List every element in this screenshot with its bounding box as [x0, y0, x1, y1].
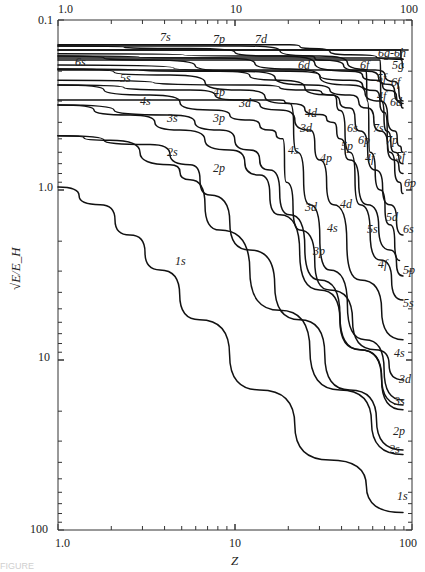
curve-label: 4d [340, 197, 353, 211]
curve-2s [58, 136, 403, 455]
curve-label: 4f [377, 89, 388, 103]
curve-label: 2p [393, 424, 405, 438]
curve-label: 5f [396, 149, 407, 163]
curve-label: 3d [299, 121, 313, 135]
curve-label: 6p [358, 133, 370, 147]
plot-frame [58, 20, 412, 530]
y-axis-title: √E/E_H [8, 247, 23, 290]
curve-label: 7p [213, 32, 225, 46]
curve-label: 3p [312, 244, 325, 258]
curve-label: 4d [305, 106, 318, 120]
top-tick-10: 10 [230, 2, 242, 16]
curve-label: 4s [394, 346, 405, 360]
curve-label: 4s [288, 143, 299, 157]
curve-label: 3d [238, 96, 252, 110]
curve-label: 1s [175, 254, 186, 268]
curve-label: 5s [367, 222, 378, 236]
figure-caption: FIGURE [0, 561, 34, 571]
curve-label: 2s [389, 442, 400, 456]
curve-label: 3s [166, 111, 178, 125]
curve-7d [58, 45, 403, 59]
curves [58, 45, 408, 513]
left-tick-1: 1.0 [38, 180, 53, 194]
curve-4f [58, 70, 400, 260]
left-tick-0.1: 0.1 [38, 13, 53, 27]
curve-label: 4p [320, 151, 332, 165]
curve-label: 5g [392, 58, 404, 72]
curve-label: 3p [212, 111, 225, 125]
curve-label: 3d [304, 200, 318, 214]
curve-4d [58, 80, 403, 300]
curve-label: 6s [75, 55, 86, 69]
curve-label: 1s [397, 489, 408, 503]
bottom-tick-1: 1.0 [55, 536, 70, 550]
x-axis-title: Z [231, 553, 239, 568]
axis-ticks [58, 20, 412, 530]
curve-label: 4s [327, 221, 338, 235]
left-tick-100: 100 [30, 522, 48, 536]
curve-label: 7s [373, 121, 384, 135]
curve-labels: 7s7p7d6g-6h6s6d6f5g5s5f6f4s4p3d4f6d3s3p4… [75, 30, 416, 503]
curve-label: 5d [386, 210, 399, 224]
curve-label: 6f [391, 75, 402, 89]
top-tick-1: 1.0 [58, 2, 73, 16]
bottom-tick-100: 100 [399, 536, 417, 550]
curve-label: 6s [347, 121, 358, 135]
curve-label: 3d [398, 372, 412, 386]
orbital-energy-chart: 7s7p7d6g-6h6s6d6f5g5s5f6f4s4p3d4f6d3s3p4… [0, 0, 425, 572]
curve-label: 2s [167, 145, 178, 159]
curve-label: 6s [403, 222, 414, 236]
curve-label: 4s [140, 94, 151, 108]
curve-1s [58, 187, 403, 513]
left-tick-10: 10 [38, 350, 50, 364]
curve-label: 7s [160, 30, 171, 44]
curve-label: 5s [403, 296, 414, 310]
top-tick-100: 100 [400, 2, 418, 16]
curve-2p [58, 136, 403, 450]
curve-label: 4p [213, 85, 225, 99]
curve-label: 2p [213, 161, 225, 175]
curve-label: 5s [120, 71, 131, 85]
curve-label: 7p [386, 133, 398, 147]
curve-label: 6d [298, 58, 311, 72]
curve-label: 3s [393, 394, 405, 408]
curve-label: 7d [255, 32, 268, 46]
bottom-tick-10: 10 [229, 536, 241, 550]
curve-label: 6p [404, 176, 416, 190]
curve-label: 5p [403, 263, 415, 277]
curve-label: 5p [341, 139, 353, 153]
curve-label: 6d [390, 95, 403, 109]
